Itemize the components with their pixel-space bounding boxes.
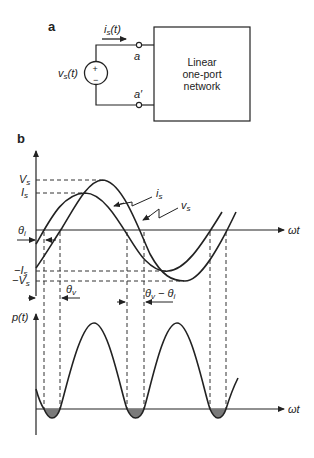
curve-i-pointer [116, 197, 152, 206]
terminal-a-prime-label: a′ [134, 88, 143, 100]
power-wt-label: ωt [288, 403, 301, 415]
curve-i-pointer-arrow [114, 203, 124, 206]
curve-i-label: is [156, 187, 162, 201]
negative-power-regions [44, 409, 226, 418]
current-label: is(t) [104, 23, 121, 37]
panel-b: b ωt Vs Is −Is −Vs θi [11, 131, 301, 435]
terminal-a-icon [136, 42, 141, 47]
Is-label: Is [21, 186, 28, 200]
curve-v-pointer [147, 208, 178, 218]
theta-v-label: θv [66, 283, 77, 297]
phase-guides [44, 232, 226, 409]
terminal-a-label: a [134, 50, 140, 62]
panel-a-label: a [48, 19, 56, 34]
top-wire [96, 45, 136, 62]
bottom-wire [96, 84, 136, 105]
box-line-3: network [184, 80, 222, 92]
power-label: p(t) [11, 311, 29, 323]
panel-b-label: b [17, 131, 25, 146]
box-line-2: one-port [182, 68, 221, 80]
circuit-and-waveform-diagram: a is(t) + − vs(t) a a′ Linear one-port n… [0, 0, 314, 458]
current-waveform [36, 193, 222, 271]
minus-sign: − [93, 75, 98, 85]
terminal-a-prime-icon [136, 102, 141, 107]
panel-a: a is(t) + − vs(t) a a′ Linear one-port n… [48, 19, 250, 121]
box-line-1: Linear [187, 56, 217, 68]
upper-wt-label: ωt [288, 224, 301, 236]
Vs-label: Vs [19, 173, 30, 187]
source-label: vs(t) [58, 67, 78, 81]
curve-v-pointer-arrow [143, 216, 150, 220]
curve-v-label: vs [181, 199, 191, 213]
theta-diff-label: θv − θi [145, 287, 175, 301]
plus-sign: + [93, 64, 98, 74]
theta-i-label: θi [18, 224, 26, 238]
power-waveform [36, 323, 238, 418]
